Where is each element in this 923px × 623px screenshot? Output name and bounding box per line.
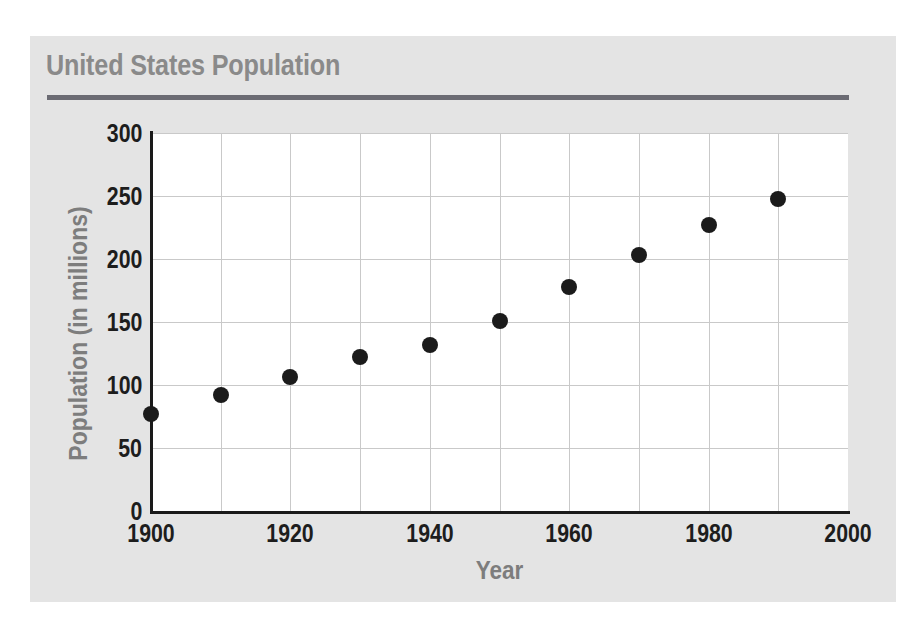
data-point — [631, 247, 647, 263]
x-tick-label: 1960 — [545, 520, 592, 546]
gridline-horizontal — [151, 196, 848, 197]
x-tick-label: 1940 — [406, 520, 453, 546]
y-tick-label: 50 — [118, 435, 142, 461]
gridline-horizontal — [151, 133, 848, 134]
y-tick-label: 200 — [106, 246, 142, 272]
data-point — [143, 406, 159, 422]
x-tick-label: 1980 — [685, 520, 732, 546]
data-point — [561, 279, 577, 295]
data-point — [422, 337, 438, 353]
y-tick-label: 150 — [106, 309, 142, 335]
y-axis-line — [150, 131, 153, 514]
data-point — [770, 191, 786, 207]
data-point — [492, 313, 508, 329]
gridline-horizontal — [151, 448, 848, 449]
gridline-horizontal — [151, 259, 848, 260]
y-tick-label: 300 — [106, 120, 142, 146]
gridline-horizontal — [151, 385, 848, 386]
data-point — [701, 217, 717, 233]
x-axis-line — [150, 511, 850, 514]
scatter-chart: 050100150200250300 Population (in millio… — [30, 36, 896, 602]
x-tick-label: 1920 — [267, 520, 314, 546]
chart-panel: United States Population 050100150200250… — [30, 36, 896, 602]
y-axis-title: Population (in millions) — [66, 182, 91, 486]
x-tick-label: 2000 — [824, 520, 871, 546]
y-tick-label: 250 — [106, 183, 142, 209]
data-point — [213, 387, 229, 403]
x-axis-title: Year — [186, 558, 813, 583]
x-tick-label: 1900 — [127, 520, 174, 546]
figure: United States Population 050100150200250… — [0, 0, 923, 623]
y-tick-label: 100 — [106, 372, 142, 398]
